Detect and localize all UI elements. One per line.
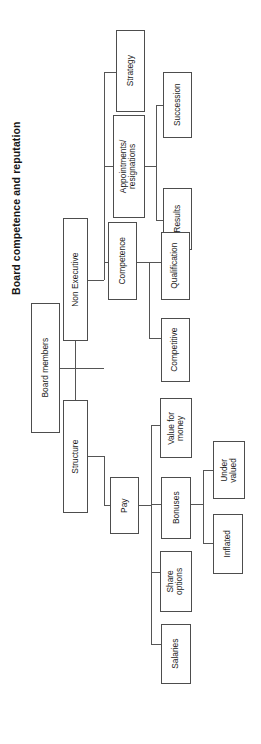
connector-to-qualification bbox=[149, 262, 161, 263]
node-label: Bonuses bbox=[171, 492, 180, 525]
connector-pay-spine bbox=[151, 425, 152, 644]
node-label: Pay bbox=[120, 498, 129, 512]
connector-to-strategy bbox=[104, 72, 116, 73]
connector-pay-out bbox=[139, 505, 151, 506]
connector-competence-out bbox=[137, 262, 149, 263]
node-share-options[interactable]: Share options bbox=[160, 551, 192, 612]
node-succession[interactable]: Succession bbox=[163, 72, 192, 138]
node-strategy[interactable]: Strategy bbox=[116, 30, 145, 112]
node-label: Structure bbox=[71, 440, 80, 474]
node-under-valued[interactable]: Under valued bbox=[213, 441, 245, 499]
connector-bonuses-out bbox=[191, 504, 203, 505]
node-salaries[interactable]: Salaries bbox=[161, 624, 191, 684]
connector-structure-out bbox=[88, 456, 104, 457]
node-inflated[interactable]: Inflated bbox=[213, 514, 243, 574]
connector-to-competitive bbox=[149, 338, 161, 339]
node-label: Succession bbox=[173, 84, 182, 127]
node-label: Under valued bbox=[220, 458, 239, 483]
connector-to-salaries bbox=[151, 644, 161, 645]
connector-bonuses-spine bbox=[203, 470, 204, 543]
connector-root-to-spine bbox=[60, 368, 104, 369]
node-label: Board members bbox=[41, 338, 50, 398]
connector-to-inflated bbox=[203, 543, 213, 544]
node-label: Inflated bbox=[223, 530, 232, 557]
connector-nonexec-spine bbox=[104, 72, 105, 280]
node-label: Results bbox=[173, 205, 182, 233]
org-tree-diagram: Board members Non Executive Structure St… bbox=[0, 0, 261, 744]
node-appointments-resignations[interactable]: Appointments/ resignations bbox=[113, 115, 145, 218]
node-label: Salaries bbox=[171, 639, 180, 669]
node-label: Qualification bbox=[171, 243, 180, 289]
node-bonuses[interactable]: Bonuses bbox=[161, 477, 191, 539]
node-pay[interactable]: Pay bbox=[110, 477, 139, 534]
connector-appointments-spine bbox=[156, 105, 157, 220]
node-value-for-money[interactable]: Value for money bbox=[160, 398, 192, 458]
node-label: Value for money bbox=[167, 412, 186, 445]
connector-structure-spine bbox=[104, 456, 105, 505]
node-label: Competitive bbox=[171, 328, 180, 372]
connector-to-bonuses bbox=[151, 504, 161, 505]
connector-competence-spine bbox=[149, 262, 150, 338]
node-board-members[interactable]: Board members bbox=[31, 303, 60, 433]
node-label: Competence bbox=[118, 237, 127, 285]
node-structure[interactable]: Structure bbox=[63, 400, 88, 513]
connector-to-under-valued bbox=[203, 470, 213, 471]
node-label: Appointments/ resignations bbox=[120, 140, 139, 194]
connector-nonexec-out bbox=[88, 280, 104, 281]
node-non-executive[interactable]: Non Executive bbox=[63, 218, 88, 341]
node-qualification[interactable]: Qualification bbox=[161, 232, 190, 300]
node-label: Strategy bbox=[126, 55, 135, 86]
node-competitive[interactable]: Competitive bbox=[161, 318, 190, 382]
node-label: Non Executive bbox=[71, 253, 80, 307]
node-competence[interactable]: Competence bbox=[108, 222, 137, 300]
node-label: Share options bbox=[167, 568, 186, 595]
